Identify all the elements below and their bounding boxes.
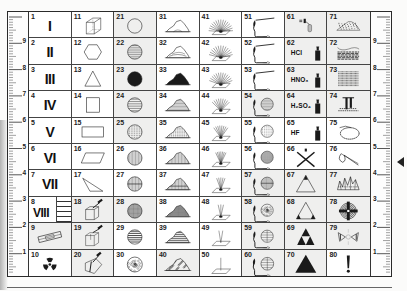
blowpipe-icon [242, 12, 284, 37]
symbol-cell-48: 48 [200, 197, 243, 223]
symbol-cell-13: 13 [72, 65, 115, 91]
fan-rays-medium-icon [200, 38, 242, 63]
roman-numeral: I [29, 18, 71, 34]
symbol-cell-25: 25 [114, 118, 157, 144]
ruler-label: 5 [373, 144, 377, 151]
symbol-cell-43: 43 [200, 65, 243, 91]
ruler-label: 3 [373, 196, 377, 203]
exclamation-icon [327, 250, 370, 276]
cross-x-icon [285, 144, 327, 169]
symbol-cell-32: 32 [157, 38, 200, 64]
symbol-cell-49: 49 [200, 223, 243, 249]
symbol-cell-20: 20 [72, 250, 115, 276]
symbol-cell-64: 64H₂SO₄ [285, 91, 328, 117]
symbol-cell-28: 28 [114, 197, 157, 223]
layered-strata-icon [327, 38, 370, 63]
symbol-cell-11: 11 [72, 12, 115, 38]
triforce-icon [285, 223, 327, 248]
symbol-cell-8: 8VIII [29, 197, 72, 223]
triangle-filled-icon [285, 250, 327, 276]
roman-numeral: VII [29, 176, 71, 192]
ruler-label: 5 [22, 144, 26, 151]
symbol-cell-56: 56 [242, 144, 285, 170]
rectangle-icon [72, 118, 114, 143]
ladder-lines-icon [56, 197, 71, 222]
symbol-cell-34: 34 [157, 91, 200, 117]
symbol-cell-6: 6VI [29, 144, 72, 170]
mound-crosshatch-icon [157, 197, 199, 222]
ruler-label: 8 [373, 65, 377, 72]
symbol-cell-38: 38 [157, 197, 200, 223]
symbol-cell-4: 4IV [29, 91, 72, 117]
ruler-label: 1 [373, 249, 377, 256]
symbol-cell-60: 60 [242, 250, 285, 276]
symbol-cell-35: 35 [157, 118, 200, 144]
rock-saw-icon [29, 223, 71, 248]
roman-numeral: VI [29, 150, 71, 166]
symbol-cell-76: 76 [327, 144, 370, 170]
mound-bands-icon [157, 223, 199, 248]
symbol-cell-21: 21 [114, 12, 157, 38]
symbol-cell-54: 54 [242, 91, 285, 117]
circle-wide-lines-icon [114, 91, 156, 116]
symbol-cell-71: 71 [327, 12, 370, 38]
symbol-cell-70: 70 [285, 250, 328, 276]
circle-vertical-split-icon [114, 170, 156, 195]
circle-crosshatch-icon [114, 197, 156, 222]
triangle-pointer-left-icon [397, 157, 404, 167]
symbol-cell-19: 19 [72, 223, 115, 249]
roman-numeral: II [29, 44, 71, 60]
symbol-cell-42: 42 [200, 38, 243, 64]
symbol-cell-65: 65HF [285, 118, 328, 144]
blowpipe-sphere-split-icon [242, 170, 284, 195]
symbol-cell-73: 73 [327, 65, 370, 91]
symbol-cell-39: 39 [157, 223, 200, 249]
symbol-cell-16: 16 [72, 144, 115, 170]
symbol-cell-67: 67 [285, 170, 328, 196]
ruler-label: 2 [373, 222, 377, 229]
ruler-left: 987654321 [8, 12, 29, 276]
symbol-cell-57: 57 [242, 170, 285, 196]
fan-rays-three-icon [200, 197, 242, 222]
symbol-cell-51: 51 [242, 12, 285, 38]
symbol-cell-47: 47 [200, 170, 243, 196]
ruler-label: 2 [22, 222, 26, 229]
symbol-cell-66: 66 [285, 144, 328, 170]
symbol-cell-31: 31 [157, 12, 200, 38]
symbol-cell-5: 5V [29, 118, 72, 144]
symbol-cell-55: 55 [242, 118, 285, 144]
symbol-chart-card: 987654321 1I2II3III4IV5V6VI7VII8VIII9101… [7, 11, 392, 277]
circle-vertical-lines-icon [114, 144, 156, 169]
symbol-cell-15: 15 [72, 118, 115, 144]
mound-filled-icon [157, 65, 199, 90]
hexagon-icon [72, 38, 114, 63]
blowpipe-icon [242, 65, 284, 90]
cube-icon [72, 12, 114, 37]
roman-numeral: IV [29, 97, 71, 113]
mound-dashed-icon [157, 118, 199, 143]
fan-rays-two-icon [200, 223, 242, 248]
symbol-cell-45: 45 [200, 118, 243, 144]
parallelogram-icon [72, 144, 114, 169]
ruler-label: 6 [373, 117, 377, 124]
symbol-cell-78: 78 [327, 197, 370, 223]
symbol-cell-72: 72 [327, 38, 370, 64]
radioactive-icon [29, 250, 71, 276]
hammer-split-icon [72, 250, 114, 276]
symbol-cell-63: 63HNO₃ [285, 65, 328, 91]
fan-rays-dense-icon [200, 65, 242, 90]
triangle-bottom-corners-icon [285, 197, 327, 222]
fan-rays-narrow-icon [200, 91, 242, 116]
symbol-cell-18: 18 [72, 197, 115, 223]
ruler-label: 6 [22, 117, 26, 124]
ruler-label: 9 [22, 38, 26, 45]
symbol-cell-79: 79 [327, 223, 370, 249]
ruler-label: 4 [373, 170, 377, 177]
single-ray-icon [200, 250, 242, 276]
symbol-cell-26: 26 [114, 144, 157, 170]
symbol-cell-10: 10 [29, 250, 72, 276]
symbol-cell-1: 1I [29, 12, 72, 38]
ruler-label: 8 [22, 65, 26, 72]
dropper-bottle-icon [285, 12, 327, 37]
triangle-icon [72, 65, 114, 90]
